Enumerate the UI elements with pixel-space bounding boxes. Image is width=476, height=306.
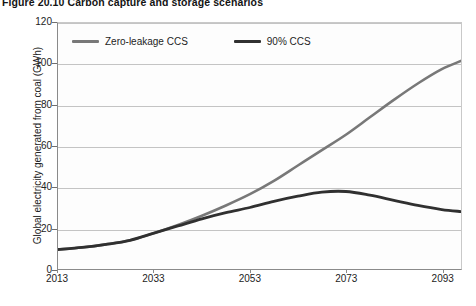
chart-legend: Zero-leakage CCS90% CCS (72, 36, 311, 47)
x-tick-mark (153, 269, 154, 273)
x-tick-label: 2053 (220, 273, 280, 285)
y-tick-label: 60 (6, 141, 52, 151)
x-tick-label: 2073 (316, 273, 376, 285)
x-tick-label: 2033 (123, 273, 183, 285)
legend-label: Zero-leakage CCS (105, 36, 188, 47)
x-axis-tick-labels: 20132033205320732093 (57, 273, 462, 291)
y-tick-label: 80 (6, 100, 52, 110)
x-tick-mark (250, 269, 251, 273)
x-tick-mark (57, 269, 58, 273)
x-tick-label: 2093 (413, 273, 473, 285)
series-line (58, 61, 461, 250)
series-line (58, 191, 461, 249)
legend-item: 90% CCS (234, 36, 311, 47)
figure-container: Figure 20.10 Carbon capture and storage … (0, 0, 476, 306)
x-tick-mark (443, 269, 444, 273)
y-tick-label: 100 (6, 58, 52, 68)
figure-title: Figure 20.10 Carbon capture and storage … (2, 0, 263, 9)
y-tick-label: 120 (6, 17, 52, 27)
legend-swatch-icon (234, 40, 261, 43)
x-tick-label: 2013 (27, 273, 87, 285)
legend-swatch-icon (72, 40, 99, 43)
y-tick-label: 40 (6, 182, 52, 192)
y-axis-tick-labels: 020406080100120 (0, 22, 52, 270)
x-tick-mark (346, 269, 347, 273)
plot-area (57, 22, 462, 270)
legend-label: 90% CCS (267, 36, 311, 47)
legend-item: Zero-leakage CCS (72, 36, 188, 47)
chart-lines (58, 23, 461, 269)
y-tick-label: 20 (6, 224, 52, 234)
